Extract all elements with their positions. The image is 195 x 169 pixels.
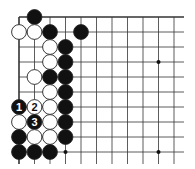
black-stone xyxy=(43,70,58,85)
white-stone xyxy=(27,25,42,40)
white-stone xyxy=(12,25,27,40)
black-stone: 3 xyxy=(27,115,42,130)
star-point-icon xyxy=(157,150,161,154)
black-stone: 1 xyxy=(12,100,27,115)
go-board: 123 xyxy=(0,0,195,169)
white-stone xyxy=(43,40,58,55)
black-stone xyxy=(27,145,42,160)
black-stone xyxy=(58,40,73,55)
black-stone xyxy=(58,130,73,145)
black-stone xyxy=(58,100,73,115)
white-stone xyxy=(12,115,27,130)
black-stone xyxy=(74,25,89,40)
black-stone xyxy=(27,10,42,25)
black-stone xyxy=(58,85,73,100)
move-number-label: 3 xyxy=(31,116,37,128)
move-number-label: 2 xyxy=(31,101,37,113)
white-stone xyxy=(43,85,58,100)
black-stone xyxy=(12,145,27,160)
white-stone xyxy=(27,130,42,145)
white-stone xyxy=(43,130,58,145)
white-stone xyxy=(27,70,42,85)
move-number-label: 1 xyxy=(16,101,22,113)
black-stone xyxy=(12,130,27,145)
black-stone xyxy=(58,55,73,70)
star-point-icon xyxy=(64,150,68,154)
black-stone xyxy=(43,25,58,40)
black-stone xyxy=(43,145,58,160)
black-stone xyxy=(58,115,73,130)
white-stone xyxy=(43,115,58,130)
black-stone xyxy=(58,70,73,85)
white-stone xyxy=(43,55,58,70)
white-stone: 2 xyxy=(27,100,42,115)
star-point-icon xyxy=(157,60,161,64)
white-stone xyxy=(43,100,58,115)
